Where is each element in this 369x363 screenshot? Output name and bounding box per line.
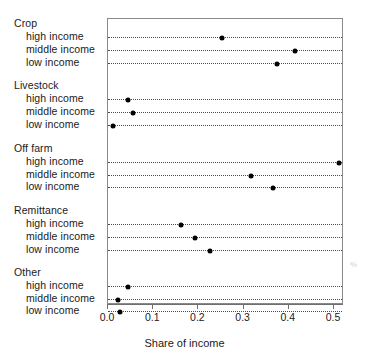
group-label-off-farm: Off farm bbox=[14, 143, 53, 154]
data-point bbox=[249, 173, 254, 178]
point-label-off-farm-low: low income bbox=[26, 181, 80, 192]
point-label-off-farm-high: high income bbox=[26, 156, 84, 167]
point-label-livestock-middle: middle income bbox=[26, 106, 95, 117]
point-label-remittance-high: high income bbox=[26, 218, 84, 229]
gridline bbox=[108, 162, 342, 164]
x-tick-label: 0.5 bbox=[326, 311, 341, 323]
data-point bbox=[130, 110, 135, 115]
x-tick bbox=[288, 304, 289, 309]
point-label-other-low: low income bbox=[26, 305, 80, 316]
data-point bbox=[271, 185, 276, 190]
group-label-remittance: Remittance bbox=[14, 205, 68, 216]
gridline bbox=[108, 237, 342, 239]
x-tick-label: 0.2 bbox=[190, 311, 205, 323]
x-tick bbox=[243, 304, 244, 309]
x-tick bbox=[152, 304, 153, 309]
x-tick bbox=[197, 304, 198, 309]
data-point bbox=[208, 248, 213, 253]
point-label-crop-high: high income bbox=[26, 31, 84, 42]
point-label-remittance-low: low income bbox=[26, 244, 80, 255]
data-point bbox=[178, 222, 183, 227]
x-tick bbox=[333, 304, 334, 309]
dot-plot-figure: Crophigh incomemiddle incomelow incomeLi… bbox=[0, 0, 369, 363]
x-tick bbox=[107, 304, 108, 309]
x-tick-label: 0.4 bbox=[280, 311, 295, 323]
data-point bbox=[219, 35, 224, 40]
x-tick-label: 0.3 bbox=[235, 311, 250, 323]
point-label-other-high: high income bbox=[26, 280, 84, 291]
group-label-crop: Crop bbox=[14, 18, 37, 29]
data-point bbox=[115, 297, 120, 302]
x-axis-title: Share of income bbox=[0, 337, 369, 349]
data-point bbox=[274, 61, 279, 66]
gridline bbox=[108, 187, 342, 189]
gridline bbox=[108, 286, 342, 288]
group-label-other: Other bbox=[14, 267, 41, 278]
gridline bbox=[108, 224, 342, 226]
gridline bbox=[108, 299, 342, 301]
gridline bbox=[108, 175, 342, 177]
gridline bbox=[108, 125, 342, 127]
gridline bbox=[108, 63, 342, 65]
point-label-crop-middle: middle income bbox=[26, 44, 95, 55]
point-label-remittance-middle: middle income bbox=[26, 231, 95, 242]
data-point bbox=[125, 97, 130, 102]
point-label-livestock-low: low income bbox=[26, 119, 80, 130]
data-point bbox=[125, 284, 130, 289]
gridline bbox=[108, 37, 342, 39]
data-point bbox=[192, 235, 197, 240]
data-point bbox=[111, 123, 116, 128]
gridline bbox=[108, 112, 342, 114]
point-label-crop-low: low income bbox=[26, 57, 80, 68]
data-point bbox=[118, 309, 123, 314]
scan-artifact: ℁ bbox=[350, 262, 360, 284]
x-tick-label: 0.1 bbox=[145, 311, 160, 323]
data-point bbox=[293, 48, 298, 53]
x-tick-label: 0.0 bbox=[100, 311, 115, 323]
gridline bbox=[108, 250, 342, 252]
gridline bbox=[108, 50, 342, 52]
x-axis-line bbox=[107, 304, 343, 305]
point-label-off-farm-middle: middle income bbox=[26, 169, 95, 180]
point-label-other-middle: middle income bbox=[26, 293, 95, 304]
gridline bbox=[108, 311, 342, 313]
point-label-livestock-high: high income bbox=[26, 93, 84, 104]
group-label-livestock: Livestock bbox=[14, 80, 59, 91]
data-point bbox=[336, 160, 341, 165]
gridline bbox=[108, 99, 342, 101]
plot-area bbox=[107, 18, 343, 304]
